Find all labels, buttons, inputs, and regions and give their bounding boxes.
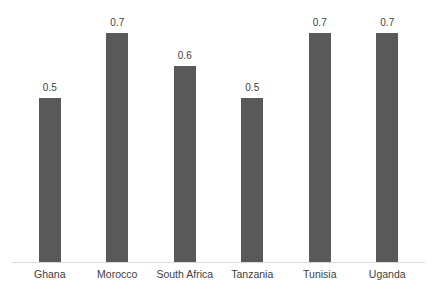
bar <box>174 66 196 262</box>
bar-chart: 0.5 0.7 0.6 0.5 0.7 0.7 Ghana Morocco So… <box>0 0 440 297</box>
bar <box>376 33 398 262</box>
axis-tick-label: Ghana <box>16 268 84 281</box>
axis-tick-label: Tanzania <box>219 268 287 281</box>
data-label: 0.5 <box>245 82 259 94</box>
plot-area: 0.5 0.7 0.6 0.5 0.7 0.7 <box>16 0 421 262</box>
axis-tick-label: Uganda <box>354 268 422 281</box>
data-label: 0.7 <box>313 17 327 29</box>
axis-tick-label: Tunisia <box>286 268 354 281</box>
data-label: 0.6 <box>178 50 192 62</box>
data-label: 0.7 <box>110 17 124 29</box>
x-axis-line <box>12 262 425 263</box>
bar-group-tunisia: 0.7 <box>286 0 354 262</box>
axis-tick-label: South Africa <box>151 268 219 281</box>
bar-group-morocco: 0.7 <box>84 0 152 262</box>
bar <box>39 98 61 262</box>
axis-tick-label: Morocco <box>84 268 152 281</box>
bar-group-uganda: 0.7 <box>354 0 422 262</box>
bar-group-tanzania: 0.5 <box>219 0 287 262</box>
x-axis-labels: Ghana Morocco South Africa Tanzania Tuni… <box>16 268 421 281</box>
bar-group-south-africa: 0.6 <box>151 0 219 262</box>
data-label: 0.5 <box>43 82 57 94</box>
bar <box>106 33 128 262</box>
data-label: 0.7 <box>380 17 394 29</box>
bar <box>241 98 263 262</box>
bar <box>309 33 331 262</box>
bar-group-ghana: 0.5 <box>16 0 84 262</box>
